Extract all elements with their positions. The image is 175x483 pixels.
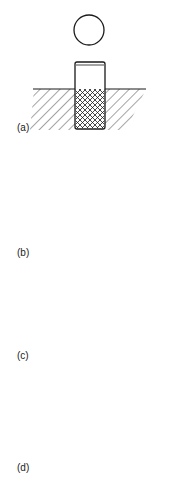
plan-view-circle xyxy=(74,15,104,45)
label-d: (d) xyxy=(17,462,29,473)
label-b: (b) xyxy=(17,247,29,258)
hatched-material xyxy=(105,89,146,130)
label-c: (c) xyxy=(17,350,29,361)
panel-a xyxy=(30,15,146,130)
label-a: (a) xyxy=(17,122,29,133)
technical-diagram xyxy=(0,0,175,483)
hatched-material xyxy=(30,89,75,130)
